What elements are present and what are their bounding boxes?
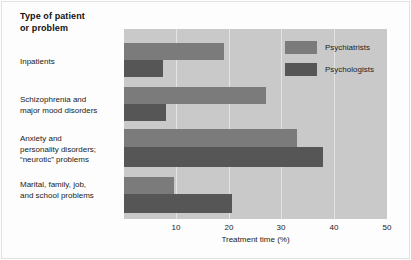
category-label-line: Marital, family, job,: [20, 180, 128, 191]
x-tick-30: 30: [277, 223, 286, 232]
legend: Psychiatrists Psychologists: [285, 38, 374, 82]
x-tick-50: 50: [383, 223, 392, 232]
x-tick-20: 20: [225, 223, 234, 232]
bar-schizophrenia-psychiatrists: [124, 87, 266, 104]
category-label-line: major mood disorders: [20, 106, 128, 117]
y-axis-title-line-2: or problem: [20, 23, 125, 35]
y-axis-title: Type of patient or problem: [20, 11, 125, 34]
category-label-line: Schizophrenia and: [20, 95, 128, 106]
category-label-inpatients: Inpatients: [20, 57, 128, 68]
bar-inpatients-psychologists: [124, 60, 163, 77]
legend-item-psychiatrists: Psychiatrists: [285, 38, 374, 56]
category-label-line: Anxiety and: [20, 134, 128, 145]
bar-anxiety-psychiatrists: [124, 129, 297, 147]
category-label-line: “neurotic” problems: [20, 155, 128, 166]
x-tick-40: 40: [330, 223, 339, 232]
legend-swatch-icon: [285, 41, 317, 54]
gridline-30: [281, 29, 282, 219]
legend-label: Psychiatrists: [325, 43, 370, 52]
figure-container: Type of patient or problem Inpatients Sc…: [0, 0, 411, 260]
gridline-20: [229, 29, 230, 219]
y-axis-title-line-1: Type of patient: [20, 11, 125, 23]
category-label-marital: Marital, family, job, and school problem…: [20, 180, 128, 201]
plot-area: Psychiatrists Psychologists: [124, 29, 387, 219]
x-axis-label: Treatment time (%): [124, 235, 387, 244]
x-tick-10: 10: [172, 223, 181, 232]
bar-schizophrenia-psychologists: [124, 104, 166, 121]
bar-marital-psychiatrists: [124, 177, 174, 194]
category-label-schizophrenia: Schizophrenia and major mood disorders: [20, 95, 128, 116]
bar-marital-psychologists: [124, 194, 232, 213]
legend-swatch-icon: [285, 63, 317, 76]
legend-item-psychologists: Psychologists: [285, 60, 374, 78]
category-label-line: personality disorders;: [20, 145, 128, 156]
category-label-line: Inpatients: [20, 57, 128, 68]
legend-label: Psychologists: [325, 65, 374, 74]
bar-inpatients-psychiatrists: [124, 43, 224, 60]
category-label-line: and school problems: [20, 191, 128, 202]
category-label-anxiety: Anxiety and personality disorders; “neur…: [20, 134, 128, 166]
bar-anxiety-psychologists: [124, 147, 323, 167]
